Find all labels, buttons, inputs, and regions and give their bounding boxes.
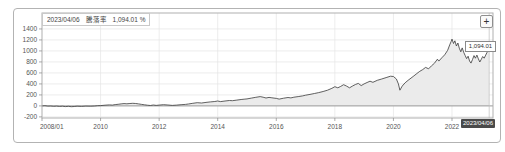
zoom-in-button[interactable]: + xyxy=(480,15,493,28)
x-axis-labels: 2008/012010201220142016201820202022 xyxy=(40,118,460,130)
svg-text:2020: 2020 xyxy=(386,123,401,130)
last-value-label: 1,094.01 xyxy=(465,41,496,52)
svg-text:800: 800 xyxy=(26,58,37,65)
screen: 1400120010008006004002000-2002008/012010… xyxy=(0,0,505,152)
svg-text:2010: 2010 xyxy=(93,123,108,130)
tooltip-value: 1,094.01 % xyxy=(113,16,146,23)
svg-text:1200: 1200 xyxy=(23,36,38,43)
svg-text:-200: -200 xyxy=(24,113,37,120)
svg-text:200: 200 xyxy=(26,91,37,98)
svg-text:600: 600 xyxy=(26,69,37,76)
svg-text:2022: 2022 xyxy=(445,123,460,130)
svg-text:1000: 1000 xyxy=(23,47,38,54)
crosshair-date-label: 2023/04/06 xyxy=(461,119,495,128)
svg-text:2008/01: 2008/01 xyxy=(40,123,64,130)
svg-text:2014: 2014 xyxy=(210,123,225,130)
chart-tooltip: 2023/04/06騰落率1,094.01 % xyxy=(42,13,150,26)
svg-text:2018: 2018 xyxy=(328,123,343,130)
svg-text:0: 0 xyxy=(33,102,37,109)
y-axis-labels: 1400120010008006004002000-200 xyxy=(23,25,42,120)
svg-text:1400: 1400 xyxy=(23,25,38,32)
tooltip-date: 2023/04/06 xyxy=(47,16,80,23)
svg-text:400: 400 xyxy=(26,80,37,87)
svg-text:2016: 2016 xyxy=(269,123,284,130)
tooltip-metric-label: 騰落率 xyxy=(86,16,107,23)
svg-text:2012: 2012 xyxy=(152,123,167,130)
